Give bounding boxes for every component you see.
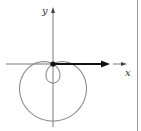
y-axis-arrowhead-icon — [51, 7, 55, 13]
polar-limacon-diagram: y x — [0, 0, 141, 131]
x-axis-label: x — [125, 67, 131, 78]
origin-point — [50, 61, 55, 66]
x-axis-arrowhead-icon — [121, 62, 127, 66]
y-axis-label: y — [41, 5, 48, 16]
vector-arrowhead-icon — [101, 61, 110, 68]
